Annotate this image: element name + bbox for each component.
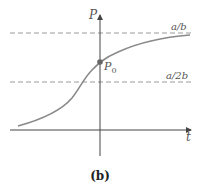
logistic-diagram: P t a/b a/2b P0 (b) (0, 0, 198, 189)
figure-caption: (b) (90, 169, 110, 183)
initial-point-marker (97, 59, 103, 65)
x-axis-label: t (186, 130, 191, 144)
asymptote-half-label: a/2b (166, 70, 188, 81)
y-axis-label: P (88, 8, 98, 22)
initial-point-label: P0 (103, 60, 117, 75)
logistic-curve (18, 35, 190, 126)
asymptote-upper-label: a/b (171, 21, 187, 32)
